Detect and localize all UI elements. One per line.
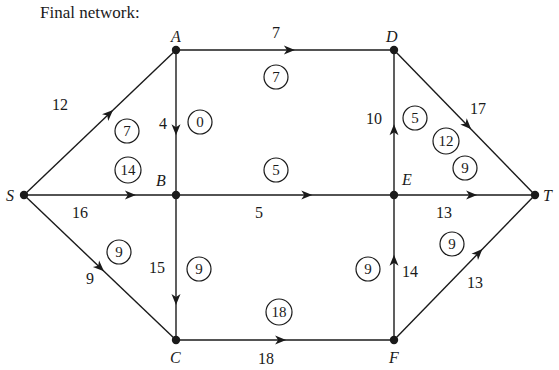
edge-flow-badge: 9 bbox=[107, 240, 131, 264]
edge-flow-badge: 5 bbox=[264, 158, 288, 182]
node-dot bbox=[172, 46, 180, 54]
node-dot bbox=[390, 191, 398, 199]
edge-flow-badge: 9 bbox=[356, 257, 380, 281]
edge-flow-value: 7 bbox=[272, 69, 280, 85]
edge-A-B: 40 bbox=[159, 50, 212, 195]
edge-capacity-label: 13 bbox=[436, 204, 452, 221]
edge-line bbox=[24, 50, 176, 195]
edge-E-T: 139 bbox=[394, 156, 535, 221]
edge-flow-value: 12 bbox=[439, 133, 454, 149]
flow-network-diagram: 12716149977405515918181051712139149139 S… bbox=[0, 0, 559, 370]
edge-A-D: 77 bbox=[176, 24, 394, 89]
node-label: S bbox=[6, 187, 14, 204]
node-dot bbox=[172, 336, 180, 344]
node-dot bbox=[531, 191, 539, 199]
edge-flow-badge: 9 bbox=[453, 156, 477, 180]
edge-E-D: 105 bbox=[366, 50, 427, 195]
node-C: C bbox=[170, 336, 181, 366]
edge-capacity-label: 9 bbox=[86, 270, 94, 287]
node-label: E bbox=[401, 171, 412, 188]
edge-capacity-label: 5 bbox=[255, 204, 263, 221]
node-label: A bbox=[170, 28, 181, 45]
edge-flow-badge: 18 bbox=[266, 299, 292, 325]
node-dot bbox=[20, 191, 28, 199]
edge-C-F: 1818 bbox=[176, 299, 394, 367]
edge-flow-badge: 7 bbox=[264, 65, 288, 89]
node-T: T bbox=[531, 187, 553, 204]
node-dot bbox=[390, 336, 398, 344]
edge-flow-value: 18 bbox=[272, 304, 287, 320]
edge-F-E: 149 bbox=[356, 195, 418, 340]
node-label: F bbox=[388, 349, 399, 366]
node-S: S bbox=[6, 187, 28, 204]
edge-B-C: 159 bbox=[149, 195, 211, 340]
edge-flow-badge: 5 bbox=[403, 106, 427, 130]
node-label: B bbox=[156, 172, 166, 189]
node-A: A bbox=[170, 28, 181, 54]
edge-S-B: 1614 bbox=[24, 157, 176, 221]
edge-capacity-label: 13 bbox=[467, 274, 483, 291]
edge-capacity-label: 18 bbox=[258, 350, 274, 367]
edge-flow-badge: 12 bbox=[433, 128, 459, 154]
edge-capacity-label: 15 bbox=[149, 259, 165, 276]
edges-layer: 12716149977405515918181051712139149139 bbox=[24, 24, 535, 367]
edge-flow-badge: 7 bbox=[115, 119, 139, 143]
node-dot bbox=[390, 46, 398, 54]
edge-flow-value: 7 bbox=[123, 123, 131, 139]
edge-capacity-label: 12 bbox=[52, 96, 68, 113]
edge-capacity-label: 14 bbox=[402, 263, 418, 280]
node-dot bbox=[172, 191, 180, 199]
edge-flow-value: 9 bbox=[448, 236, 456, 252]
edge-capacity-label: 17 bbox=[470, 100, 486, 117]
edge-flow-value: 9 bbox=[195, 261, 203, 277]
edge-capacity-label: 10 bbox=[366, 110, 382, 127]
edge-S-A: 127 bbox=[24, 50, 176, 195]
node-label: D bbox=[385, 28, 398, 45]
edge-flow-badge: 0 bbox=[188, 110, 212, 134]
edge-flow-badge: 9 bbox=[440, 232, 464, 256]
edge-flow-badge: 9 bbox=[187, 257, 211, 281]
edge-flow-value: 0 bbox=[196, 114, 204, 130]
edge-capacity-label: 7 bbox=[272, 24, 280, 41]
edge-B-E: 55 bbox=[176, 158, 394, 221]
edge-flow-value: 5 bbox=[411, 110, 419, 126]
edge-flow-badge: 14 bbox=[115, 157, 141, 183]
edge-flow-value: 5 bbox=[272, 162, 280, 178]
edge-capacity-label: 16 bbox=[72, 204, 88, 221]
edge-flow-value: 14 bbox=[121, 162, 137, 178]
node-label: T bbox=[543, 187, 553, 204]
edge-flow-value: 9 bbox=[115, 244, 123, 260]
edge-flow-value: 9 bbox=[364, 261, 372, 277]
edge-flow-value: 9 bbox=[461, 160, 469, 176]
node-label: C bbox=[170, 349, 181, 366]
edge-capacity-label: 4 bbox=[159, 115, 167, 132]
